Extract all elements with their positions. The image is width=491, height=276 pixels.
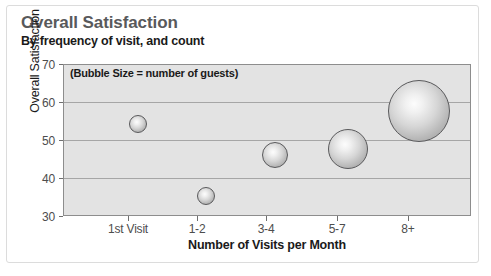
x-tick-label-8-plus: 8+ — [368, 222, 448, 236]
bubble-8-plus[interactable] — [388, 80, 450, 142]
y-tick-label-30: 30 — [21, 210, 55, 224]
x-tick-mark-1st-visit — [128, 216, 129, 221]
y-tick-label-40: 40 — [21, 172, 55, 186]
page-title: Overall Satisfaction — [21, 13, 178, 33]
gridline-40 — [64, 178, 470, 179]
x-tick-mark-3-4 — [266, 216, 267, 221]
y-axis-label: Overall Satisfaction — [28, 5, 42, 137]
plot-area: (Bubble Size = number of guests) — [63, 64, 471, 216]
chart-figure: Overall Satisfaction By frequency of vis… — [6, 5, 479, 263]
x-tick-label-1-2: 1-2 — [157, 222, 237, 236]
x-tick-mark-1-2 — [197, 216, 198, 221]
bubble-1-2[interactable] — [197, 187, 215, 205]
x-tick-label-1st-visit: 1st Visit — [88, 222, 168, 236]
bubble-3-4[interactable] — [262, 142, 288, 168]
x-tick-label-5-7: 5-7 — [297, 222, 377, 236]
x-tick-mark-5-7 — [337, 216, 338, 221]
bubble-1st-visit[interactable] — [129, 115, 147, 133]
y-tick-mark-30 — [59, 216, 63, 217]
x-axis-label: Number of Visits per Month — [63, 238, 471, 252]
x-tick-label-3-4: 3-4 — [226, 222, 306, 236]
chart-annotation: (Bubble Size = number of guests) — [70, 67, 238, 79]
x-tick-mark-8-plus — [408, 216, 409, 221]
chart-subtitle: By frequency of visit, and count — [21, 34, 204, 48]
bubble-5-7[interactable] — [328, 129, 368, 169]
